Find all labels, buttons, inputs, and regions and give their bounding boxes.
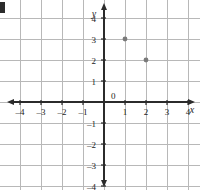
x-tick-label: –2 xyxy=(57,107,67,117)
x-tick-label: –4 xyxy=(15,107,26,117)
data-point xyxy=(123,37,128,42)
x-tick-label: –3 xyxy=(36,107,47,117)
grid-lines xyxy=(0,0,200,190)
origin-label: 0 xyxy=(111,91,116,101)
y-tick-label: 3 xyxy=(92,35,97,45)
x-axis-label: x xyxy=(189,104,195,115)
data-points xyxy=(123,37,149,63)
y-tick-label: –4 xyxy=(86,182,97,191)
x-tick-label: 2 xyxy=(144,107,149,117)
axes xyxy=(14,10,188,186)
y-tick-label: –1 xyxy=(86,119,96,129)
x-tick-label: –1 xyxy=(78,107,88,117)
coordinate-plane-figure: –4–3–2–112344321–1–2–3–40 xy xyxy=(0,0,200,190)
y-tick-label: –3 xyxy=(86,161,97,171)
y-tick-label: 2 xyxy=(92,56,97,66)
x-tick-label: 3 xyxy=(165,107,170,117)
y-axis-label: y xyxy=(91,8,97,19)
y-tick-label: –2 xyxy=(86,140,96,150)
coordinate-grid-svg: –4–3–2–112344321–1–2–3–40 xy xyxy=(0,0,200,190)
x-tick-label: 1 xyxy=(123,107,128,117)
y-tick-label: 1 xyxy=(92,77,97,87)
axis-name-labels: xy xyxy=(91,8,195,115)
data-point xyxy=(144,58,149,63)
